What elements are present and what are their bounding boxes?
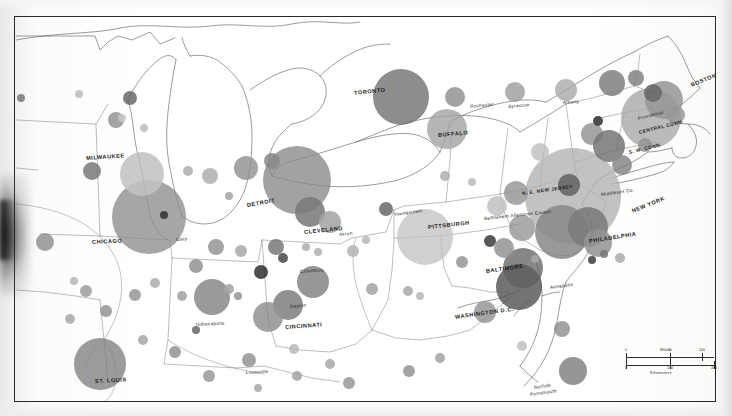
scan-edge-shadow-core	[0, 200, 16, 260]
map-neatline	[14, 16, 716, 402]
scan-bottom-fade	[0, 402, 732, 416]
scan-top-fade	[0, 0, 732, 10]
scan-right-fade	[722, 0, 732, 416]
map-canvas: MILWAUKEECHICAGODETROITTORONTOBUFFALOCLE…	[0, 0, 732, 416]
